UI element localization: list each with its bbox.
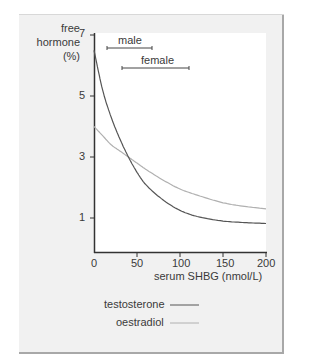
y-axis-label-line-2: hormone (37, 35, 80, 49)
y-axis-label-line-3: (%) (37, 49, 80, 63)
male-range-bar (107, 46, 152, 50)
female-range-label: female (141, 54, 174, 66)
x-tick-100: 100 (172, 257, 190, 269)
x-tick-0: 0 (91, 257, 97, 269)
y-tick-5: 5 (79, 89, 85, 101)
male-range-label: male (118, 34, 142, 46)
y-tick-7: 7 (79, 27, 85, 39)
y-axis-label: free hormone (%) (37, 21, 80, 63)
testosterone-line (94, 50, 266, 223)
x-axis-label: serum SHBG (nmol/L) (154, 270, 262, 282)
female-range-bar (122, 66, 189, 70)
legend-oestradiol-label: oestradiol (116, 316, 164, 328)
y-tick-3: 3 (79, 150, 85, 162)
x-tick-200: 200 (257, 257, 275, 269)
x-tick-50: 50 (131, 257, 143, 269)
y-axis-label-line-1: free (37, 21, 80, 35)
x-ticks (137, 253, 266, 257)
legend-testosterone-label: testosterone (104, 298, 165, 310)
y-tick-1: 1 (79, 211, 85, 223)
y-ticks (90, 35, 94, 218)
x-tick-150: 150 (216, 257, 234, 269)
